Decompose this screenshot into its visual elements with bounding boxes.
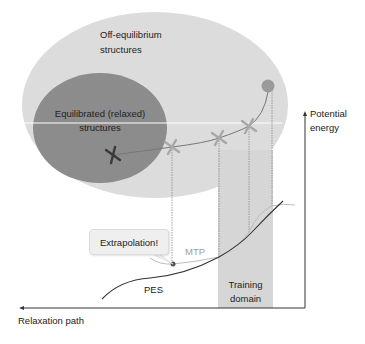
- equilibrated-label-line2: structures: [46, 122, 154, 134]
- training-domain-label-line2: domain: [218, 293, 273, 305]
- diagram-canvas: [0, 0, 365, 344]
- y-axis-label-line1: Potential: [310, 108, 347, 120]
- x-axis-arrow-icon: [19, 306, 24, 310]
- off-equilibrium-label-line2: structures: [100, 44, 162, 56]
- extrapolation-callout: Extrapolation!: [89, 229, 169, 255]
- off-equilibrium-label-line1: Off-equilibrium: [100, 29, 162, 41]
- mtp-label: MTP: [185, 246, 205, 258]
- y-axis-label: Potential energy: [310, 108, 347, 134]
- extrapolation-callout-text: Extrapolation!: [100, 237, 158, 248]
- training-domain-label: Training domain: [218, 279, 273, 305]
- y-axis-label-line2: energy: [310, 122, 347, 134]
- equilibrated-label: Equilibrated (relaxed) structures: [46, 108, 154, 134]
- pes-label: PES: [144, 284, 163, 296]
- y-axis-arrow-icon: [303, 111, 307, 116]
- off-equilibrium-label: Off-equilibrium structures: [100, 29, 162, 56]
- marker-circle: [262, 80, 275, 93]
- equilibrated-label-line1: Equilibrated (relaxed): [46, 108, 154, 120]
- x-axis-label: Relaxation path: [18, 315, 84, 327]
- training-domain-label-line1: Training: [218, 279, 273, 291]
